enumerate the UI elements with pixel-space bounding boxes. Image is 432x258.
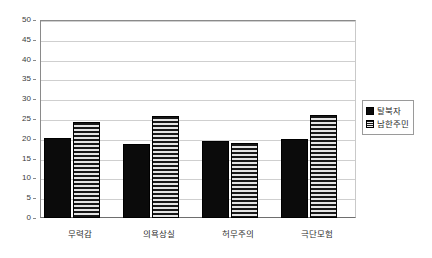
bar[interactable] [123, 144, 150, 218]
y-tick-mark [33, 178, 36, 179]
legend-item[interactable]: 탈북자 [366, 105, 409, 117]
x-axis: 무력감의욕상실허무주의극단모험 [40, 228, 356, 246]
y-tick-label: 0 [27, 214, 31, 222]
y-tick-mark [33, 20, 36, 21]
chart-legend: 탈북자 남한주민 [362, 100, 414, 135]
y-tick-label: 50 [22, 16, 31, 24]
legend-item-label: 남한주민 [377, 119, 409, 129]
bars-layer [40, 20, 356, 218]
x-tick-label: 의욕상실 [119, 228, 198, 240]
y-tick-mark [33, 99, 36, 100]
y-tick-mark [33, 198, 36, 199]
y-tick-mark [33, 218, 36, 219]
y-tick-label: 15 [22, 155, 31, 163]
y-tick-mark [33, 139, 36, 140]
y-tick-label: 25 [22, 115, 31, 123]
y-tick-label: 40 [22, 56, 31, 64]
y-tick-mark [33, 40, 36, 41]
y-axis: 05101520253035404550 [0, 20, 36, 218]
bar[interactable] [281, 139, 308, 218]
y-tick-mark [33, 119, 36, 120]
x-tick-label: 극단모험 [277, 228, 356, 240]
y-tick-label: 5 [27, 194, 31, 202]
y-tick-mark [33, 60, 36, 61]
bar-chart-figure: 05101520253035404550 무력감의욕상실허무주의극단모험 탈북자… [0, 0, 432, 258]
y-tick-mark [33, 79, 36, 80]
legend-item[interactable]: 남한주민 [366, 118, 409, 130]
x-tick-label: 허무주의 [198, 228, 277, 240]
bar-group [198, 20, 277, 218]
legend-swatch-icon [366, 107, 374, 115]
y-tick-mark [33, 159, 36, 160]
y-tick-label: 30 [22, 95, 31, 103]
bar[interactable] [73, 122, 100, 218]
y-tick-label: 45 [22, 36, 31, 44]
bar[interactable] [310, 115, 337, 218]
legend-swatch-icon [366, 120, 374, 128]
y-tick-label: 10 [22, 174, 31, 182]
bar-group [40, 20, 119, 218]
legend-item-label: 탈북자 [377, 106, 401, 116]
y-tick-label: 35 [22, 75, 31, 83]
y-tick-label: 20 [22, 135, 31, 143]
bar-group [277, 20, 356, 218]
bar[interactable] [202, 141, 229, 218]
bar[interactable] [231, 143, 258, 218]
bar[interactable] [44, 138, 71, 218]
bar[interactable] [152, 116, 179, 218]
x-tick-label: 무력감 [40, 228, 119, 240]
bar-group [119, 20, 198, 218]
